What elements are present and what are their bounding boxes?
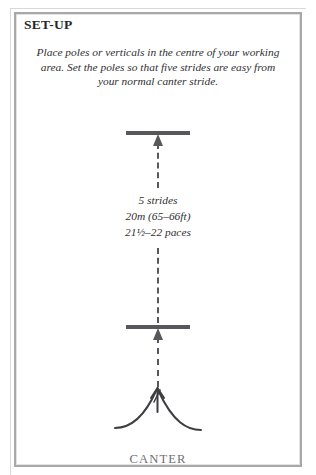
book-page: SET-UP Place poles or verticals in the c… bbox=[0, 0, 316, 475]
page-title: SET-UP bbox=[24, 17, 73, 33]
intro-paragraph: Place poles or verticals in the centre o… bbox=[30, 45, 286, 89]
gait-label: CANTER bbox=[58, 452, 258, 467]
pole-bottom bbox=[126, 325, 190, 329]
travel-line-middle bbox=[157, 248, 159, 323]
measurement-distance: 20m (65–66ft) bbox=[58, 208, 258, 224]
measurement-strides: 5 strides bbox=[58, 192, 258, 208]
measurement-block: 5 strides 20m (65–66ft) 21½–22 paces bbox=[58, 192, 258, 240]
arrow-up-icon-bottom bbox=[153, 328, 163, 340]
canter-gait-icon bbox=[113, 386, 203, 434]
pole-top bbox=[126, 131, 190, 135]
arrow-up-icon-top bbox=[153, 134, 163, 146]
travel-line-lower bbox=[157, 337, 159, 387]
travel-line-upper bbox=[157, 143, 159, 188]
measurement-paces: 21½–22 paces bbox=[58, 224, 258, 240]
